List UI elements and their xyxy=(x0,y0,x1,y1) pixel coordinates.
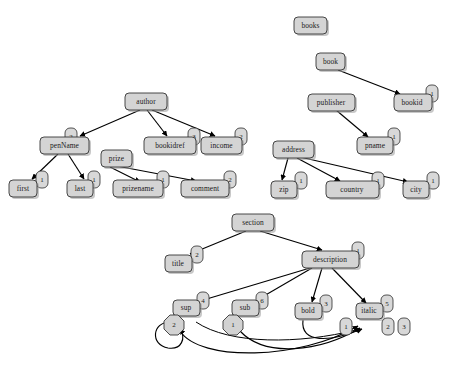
node-author[interactable]: author xyxy=(125,93,169,112)
edge-address-city xyxy=(300,157,408,182)
node-zip-label: zip xyxy=(279,185,289,194)
node-bookid-label: bookid xyxy=(401,98,422,107)
node-sub[interactable]: 6 sub xyxy=(232,292,268,318)
node-address[interactable]: address xyxy=(273,141,316,160)
node-country-label: country xyxy=(340,185,363,194)
edge-book-bookid xyxy=(338,70,400,94)
node-comment[interactable]: 2 comment xyxy=(181,171,236,199)
node-sub-badge: 6 xyxy=(260,297,264,305)
octagon-badge-sub-label: 1 xyxy=(231,321,235,329)
node-first-label: first xyxy=(17,184,30,193)
node-title-badge: 2 xyxy=(195,251,199,259)
node-penName[interactable]: 2 penName xyxy=(40,128,91,156)
edge-section-description xyxy=(260,231,322,250)
node-country[interactable]: 1 country xyxy=(326,172,384,200)
node-title-label: title xyxy=(172,259,185,268)
octagon-badge-italic-right-2-label: 3 xyxy=(402,323,406,331)
node-book-label: book xyxy=(323,57,338,66)
node-address-label: address xyxy=(282,145,305,154)
node-bookid[interactable]: 1 bookid xyxy=(394,85,438,113)
node-bookidref[interactable]: 3 bookidref xyxy=(144,128,200,156)
diagram-canvas: author 2 penName prize 3 bookidref xyxy=(0,0,452,366)
node-income[interactable]: 2 income xyxy=(201,128,247,156)
nodes-books-graph: books book 1 bookid publisher xyxy=(271,17,439,200)
node-section[interactable]: section xyxy=(232,214,276,233)
octagon-badge-italic-right-1-label: 2 xyxy=(386,323,390,331)
node-section-label: section xyxy=(242,218,264,227)
node-books[interactable]: books xyxy=(294,17,329,36)
octagon-badge-sup[interactable]: 2 xyxy=(164,315,184,335)
node-sup-label: sup xyxy=(181,303,192,312)
node-income-label: income xyxy=(210,141,233,150)
node-author-label: author xyxy=(136,97,156,106)
node-italic-badge: 5 xyxy=(385,300,389,308)
node-book[interactable]: book xyxy=(316,53,347,72)
node-bold-badge: 3 xyxy=(324,300,328,308)
octagon-badge-italic-left-label: 1 xyxy=(344,323,348,331)
node-italic-label: italic xyxy=(361,306,377,315)
octagon-badge-sup-label: 2 xyxy=(172,321,176,329)
node-first[interactable]: 1 first xyxy=(9,171,48,199)
node-penName-label: penName xyxy=(50,141,80,150)
edge-description-bold xyxy=(312,268,322,302)
edge-address-zip xyxy=(282,158,288,180)
node-zip-badge: 1 xyxy=(299,177,303,185)
node-city-label: city xyxy=(410,185,422,194)
octagon-badge-italic-right-2[interactable]: 3 xyxy=(398,318,410,335)
node-description-label: description xyxy=(313,255,347,264)
edge-description-sup xyxy=(200,268,310,301)
edge-publisher-pname xyxy=(336,110,368,137)
node-comment-label: comment xyxy=(191,184,220,193)
edge-author-penName xyxy=(80,110,140,136)
edges-books-graph xyxy=(282,70,408,182)
nodes-author-graph: author 2 penName prize 3 bookidref xyxy=(9,93,247,199)
edge-penName-last xyxy=(68,154,84,179)
edge-author-bookidref xyxy=(147,110,167,136)
node-first-badge: 1 xyxy=(40,176,44,184)
edge-author-income xyxy=(152,110,215,136)
node-last[interactable]: 1 last xyxy=(67,171,100,199)
octagon-badge-italic-right-1[interactable]: 2 xyxy=(382,318,394,335)
node-prize[interactable]: prize xyxy=(101,150,134,169)
node-prize-label: prize xyxy=(109,154,125,163)
node-books-label: books xyxy=(301,21,319,30)
octagon-badge-sub[interactable]: 1 xyxy=(223,315,243,335)
node-sub-label: sub xyxy=(240,303,251,312)
node-prizename-label: prizename xyxy=(122,184,154,193)
node-pname-label: pname xyxy=(365,141,386,150)
node-publisher[interactable]: publisher xyxy=(308,94,357,113)
node-sup-badge: 4 xyxy=(201,297,205,305)
node-title[interactable]: 2 title xyxy=(165,246,203,274)
node-last-label: last xyxy=(75,184,87,193)
node-zip[interactable]: 1 zip xyxy=(271,172,307,200)
octagon-badge-italic-left[interactable]: 1 xyxy=(340,318,352,335)
graph-svg: author 2 penName prize 3 bookidref xyxy=(0,0,452,366)
node-city-badge: 1 xyxy=(431,177,435,185)
node-bookidref-label: bookidref xyxy=(155,141,185,150)
node-prizename[interactable]: 1 prizename xyxy=(113,171,169,199)
node-pname[interactable]: 1 pname xyxy=(357,128,400,156)
node-sup[interactable]: 4 sup xyxy=(173,292,209,318)
node-bold-label: bold xyxy=(301,306,315,315)
node-city[interactable]: 1 city xyxy=(403,172,439,200)
node-publisher-label: publisher xyxy=(317,98,346,107)
edge-description-italic xyxy=(332,268,366,303)
